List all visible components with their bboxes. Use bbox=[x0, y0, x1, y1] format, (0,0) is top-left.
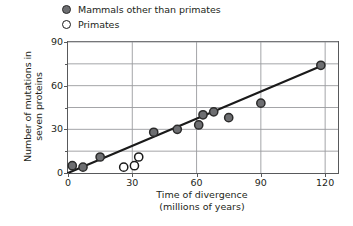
y-tick-mark bbox=[64, 42, 68, 43]
x-tick-label: 120 bbox=[316, 178, 334, 188]
plot-area: 0306090 0306090120 bbox=[67, 41, 339, 174]
trend-line bbox=[68, 65, 323, 173]
chart-legend: Mammals other than primates Primates bbox=[62, 2, 302, 32]
x-tick-mark bbox=[68, 173, 69, 177]
y-axis-label: Number of mutations in seven proteins bbox=[10, 41, 56, 172]
legend-item-primates: Primates bbox=[62, 17, 302, 31]
y-axis-label-line1: Number of mutations in bbox=[22, 51, 34, 162]
x-axis-label-line2: (millions of years) bbox=[67, 201, 337, 213]
x-tick-label: 90 bbox=[255, 178, 267, 188]
y-axis-label-line2: seven proteins bbox=[33, 51, 45, 162]
data-point bbox=[195, 121, 203, 129]
data-point bbox=[225, 114, 233, 122]
data-point bbox=[79, 163, 87, 171]
x-tick-label: 60 bbox=[191, 178, 203, 188]
data-point bbox=[96, 153, 104, 161]
x-tick-mark bbox=[197, 173, 198, 177]
x-axis-label-line1: Time of divergence bbox=[67, 189, 337, 201]
data-point bbox=[130, 162, 138, 170]
y-tick-label: 60 bbox=[51, 81, 63, 91]
x-tick-label: 30 bbox=[126, 178, 138, 188]
scatter-plot-figure: Mammals other than primates Primates Num… bbox=[0, 0, 353, 226]
x-tick-label: 0 bbox=[65, 178, 71, 188]
data-point bbox=[135, 153, 143, 161]
gridlines bbox=[68, 42, 338, 173]
y-tick-label: 0 bbox=[57, 168, 63, 178]
legend-label-mammals: Mammals other than primates bbox=[78, 4, 221, 15]
legend-item-mammals: Mammals other than primates bbox=[62, 2, 302, 16]
plot-canvas bbox=[68, 42, 338, 173]
y-tick-mark-minor bbox=[65, 108, 68, 109]
y-tick-mark-minor bbox=[65, 64, 68, 65]
open-circle-icon bbox=[62, 20, 71, 29]
data-point bbox=[150, 128, 158, 136]
x-tick-mark bbox=[261, 173, 262, 177]
x-tick-mark bbox=[325, 173, 326, 177]
data-point bbox=[120, 163, 128, 171]
x-axis-label: Time of divergence (millions of years) bbox=[67, 189, 337, 212]
legend-label-primates: Primates bbox=[78, 19, 119, 30]
y-tick-label: 30 bbox=[51, 125, 63, 135]
data-point bbox=[257, 99, 265, 107]
x-tick-mark bbox=[132, 173, 133, 177]
data-point bbox=[199, 111, 207, 119]
data-point bbox=[210, 108, 218, 116]
y-tick-mark-minor bbox=[65, 151, 68, 152]
data-point bbox=[317, 61, 325, 69]
data-point bbox=[68, 162, 76, 170]
series-primates-points bbox=[120, 153, 143, 171]
y-tick-mark bbox=[64, 86, 68, 87]
y-tick-label: 90 bbox=[51, 37, 63, 47]
y-tick-mark bbox=[64, 129, 68, 130]
data-point bbox=[173, 125, 181, 133]
filled-circle-icon bbox=[62, 5, 71, 14]
